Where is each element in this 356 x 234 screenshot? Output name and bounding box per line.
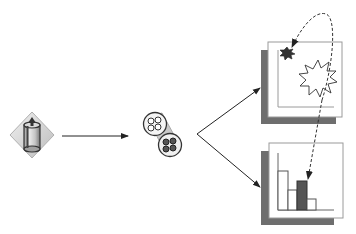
- starburst-panel[interactable]: [261, 42, 342, 124]
- bar-4: [307, 199, 316, 210]
- flow-arrow-processor-bottom: [197, 134, 260, 187]
- bar-2: [288, 190, 297, 210]
- flow-arrow-processor-top: [197, 88, 260, 134]
- bar-3-highlighted: [297, 181, 307, 210]
- diagram-canvas: [0, 0, 356, 234]
- database-cylinder-icon: [10, 112, 54, 158]
- bar-1: [278, 171, 288, 210]
- bar-chart-panel[interactable]: [261, 143, 343, 225]
- twin-reel-icon: [144, 113, 182, 157]
